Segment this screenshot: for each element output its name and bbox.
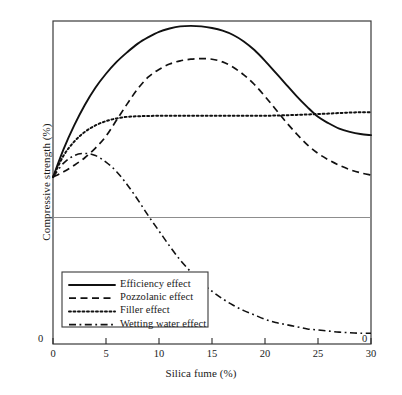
series-line-filler-effect xyxy=(53,112,371,177)
legend-label-efficiency-effect: Efficiency effect xyxy=(120,278,191,289)
legend-label-filler-effect: Filler effect xyxy=(120,304,170,315)
legend-label-wetting-water-effect: Wetting water effect xyxy=(120,318,206,329)
x-tick-label-15-3: 15 xyxy=(199,348,225,359)
y-axis-origin-label: 0 xyxy=(38,333,43,344)
x-tick-label-5-1: 5 xyxy=(93,348,119,359)
x-axis-end-zero-label: 0 xyxy=(362,333,367,344)
x-axis-title: Silica fume (%) xyxy=(0,367,402,379)
x-tick-label-0-0: 0 xyxy=(40,348,66,359)
legend-label-pozzolanic-effect: Pozzolanic effect xyxy=(120,291,193,302)
chart-plot-area xyxy=(0,0,402,395)
x-tick-label-30-6: 30 xyxy=(358,348,384,359)
series-line-efficiency-effect xyxy=(53,26,371,177)
x-tick-label-10-2: 10 xyxy=(146,348,172,359)
series-line-pozzolanic-effect xyxy=(53,59,371,177)
x-tick-label-20-4: 20 xyxy=(252,348,278,359)
x-axis-ticks xyxy=(53,338,371,344)
x-tick-label-25-5: 25 xyxy=(305,348,331,359)
y-axis-title: Compressive strength (%) xyxy=(40,32,52,332)
chart-figure: Silica fume (%) Compressive strength (%)… xyxy=(0,0,402,395)
